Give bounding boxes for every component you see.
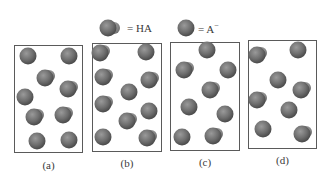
legend-a-minus-superscript: − bbox=[214, 21, 219, 30]
ha-molecule-icon bbox=[201, 81, 219, 99]
a-minus-ion-icon bbox=[28, 132, 46, 150]
legend-ha-label: = HA bbox=[127, 22, 152, 34]
a-minus-ion-icon bbox=[254, 120, 272, 138]
ha-molecule-icon bbox=[36, 69, 54, 87]
legend-a-minus-label: = A− bbox=[198, 21, 219, 35]
ha-molecule-icon bbox=[292, 81, 310, 99]
a-minus-ion-icon bbox=[120, 83, 138, 101]
a-minus-ion-icon bbox=[60, 131, 78, 149]
a-minus-ion-icon bbox=[94, 128, 112, 146]
ha-molecule-icon bbox=[140, 71, 158, 89]
a-minus-ion-icon bbox=[269, 71, 287, 89]
a-minus-ion-icon bbox=[177, 19, 195, 37]
a-minus-ion-icon bbox=[198, 41, 216, 59]
legend-a-minus-text: = A bbox=[198, 23, 214, 35]
ha-molecule-icon bbox=[25, 108, 43, 126]
ha-molecule-icon bbox=[94, 95, 112, 113]
ha-molecule-icon bbox=[248, 91, 266, 109]
legend-ha: = HA bbox=[98, 19, 152, 37]
a-minus-ion-icon bbox=[173, 128, 191, 146]
ha-molecule-icon bbox=[248, 46, 266, 64]
ha-molecule-icon bbox=[175, 61, 193, 79]
ha-molecule-icon bbox=[204, 127, 222, 145]
panel-label-a: (a) bbox=[29, 159, 69, 171]
ha-molecule-icon bbox=[118, 112, 136, 130]
ha-molecule-icon bbox=[54, 106, 72, 124]
ha-molecule-icon bbox=[59, 80, 77, 98]
a-minus-ion-icon bbox=[60, 47, 78, 65]
a-minus-ion-icon bbox=[137, 43, 155, 61]
ha-molecule-icon bbox=[94, 68, 112, 86]
a-minus-ion-icon bbox=[180, 98, 198, 116]
panel-label-c: (c) bbox=[185, 156, 225, 168]
a-minus-ion-icon bbox=[216, 105, 234, 123]
a-minus-ion-icon bbox=[289, 41, 307, 59]
legend-a-minus: = A− bbox=[177, 19, 219, 37]
ha-molecule-icon bbox=[138, 129, 156, 147]
a-minus-ion-icon bbox=[140, 102, 158, 120]
ha-molecule-icon bbox=[293, 125, 311, 143]
a-minus-ion-icon bbox=[16, 88, 34, 106]
panel-label-b: (b) bbox=[107, 157, 147, 169]
ha-molecule-icon bbox=[98, 19, 124, 37]
panel-label-d: (d) bbox=[263, 154, 303, 166]
a-minus-ion-icon bbox=[19, 47, 37, 65]
a-minus-ion-icon bbox=[280, 101, 298, 119]
a-minus-ion-icon bbox=[219, 61, 237, 79]
ha-molecule-icon bbox=[91, 44, 109, 62]
